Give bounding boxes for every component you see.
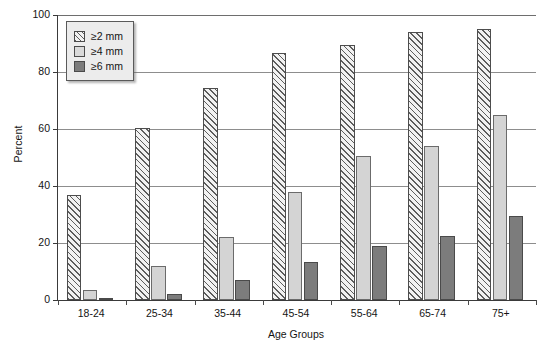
legend-swatch-icon bbox=[74, 61, 85, 72]
x-axis-tickmark bbox=[468, 300, 469, 305]
y-axis-tick-label: 80 bbox=[14, 66, 50, 77]
x-axis-tick-label: 75+ bbox=[467, 307, 535, 319]
bar bbox=[135, 128, 150, 300]
x-axis-title: Age Groups bbox=[57, 328, 535, 340]
legend-swatch-icon bbox=[74, 46, 85, 57]
bar bbox=[67, 195, 82, 300]
bar bbox=[99, 298, 114, 300]
bar-group bbox=[399, 15, 467, 300]
bar bbox=[304, 262, 319, 300]
bar bbox=[235, 280, 250, 300]
bar bbox=[203, 88, 218, 300]
bar bbox=[493, 115, 508, 300]
bar bbox=[424, 146, 439, 300]
x-axis-tickmark bbox=[263, 300, 264, 305]
x-axis-tickmark bbox=[536, 300, 537, 305]
x-axis-tick-label: 45-54 bbox=[262, 307, 330, 319]
x-axis-tick-label: 55-64 bbox=[330, 307, 398, 319]
y-axis-tick-label: 40 bbox=[14, 180, 50, 191]
bar-group bbox=[468, 15, 536, 300]
bar bbox=[477, 29, 492, 300]
bar bbox=[356, 156, 371, 300]
bar bbox=[372, 246, 387, 300]
x-axis-tick-label: 35-44 bbox=[194, 307, 262, 319]
bar-chart: Percent 020406080100 18-2425-3435-4445-5… bbox=[0, 0, 545, 346]
bar bbox=[272, 53, 287, 300]
bar bbox=[219, 237, 234, 300]
bar bbox=[167, 294, 182, 300]
chart-legend: ≥2 mm ≥4 mm ≥6 mm bbox=[66, 21, 134, 81]
y-axis-tick-labels: 020406080100 bbox=[8, 0, 50, 346]
legend-swatch-icon bbox=[74, 31, 85, 42]
y-axis-tick-label: 20 bbox=[14, 237, 50, 248]
y-axis-tick-label: 100 bbox=[14, 9, 50, 20]
bar bbox=[83, 290, 98, 300]
legend-item-label: ≥6 mm bbox=[91, 61, 123, 72]
bar bbox=[151, 266, 166, 300]
x-axis-tickmark bbox=[58, 300, 59, 305]
x-axis-tick-label: 65-74 bbox=[398, 307, 466, 319]
legend-item: ≥4 mm bbox=[74, 44, 123, 58]
bar-group bbox=[263, 15, 331, 300]
legend-item: ≥2 mm bbox=[74, 29, 123, 43]
legend-item-label: ≥4 mm bbox=[91, 46, 123, 57]
bar bbox=[288, 192, 303, 300]
x-axis-tickmark bbox=[195, 300, 196, 305]
bar-group bbox=[195, 15, 263, 300]
x-axis-tick-label: 25-34 bbox=[125, 307, 193, 319]
y-axis-tick-label: 0 bbox=[14, 294, 50, 305]
x-axis-tickmark bbox=[331, 300, 332, 305]
x-axis-tickmark bbox=[126, 300, 127, 305]
bar bbox=[408, 32, 423, 300]
bar-group bbox=[331, 15, 399, 300]
bar-group bbox=[126, 15, 194, 300]
x-axis-tickmark bbox=[399, 300, 400, 305]
bar bbox=[440, 236, 455, 300]
legend-item-label: ≥2 mm bbox=[91, 31, 123, 42]
x-axis-tick-label: 18-24 bbox=[57, 307, 125, 319]
bar bbox=[509, 216, 524, 300]
y-axis-tick-label: 60 bbox=[14, 123, 50, 134]
legend-item: ≥6 mm bbox=[74, 59, 123, 73]
bar bbox=[340, 45, 355, 300]
